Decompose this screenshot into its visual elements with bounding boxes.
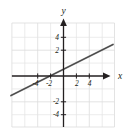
xtick-label-pos2: 2 [75, 79, 79, 88]
graph-canvas: -4 -2 2 4 4 2 -2 -4 x y [0, 0, 129, 137]
ytick-label-neg2: -2 [53, 97, 59, 106]
y-axis-label: y [60, 6, 66, 16]
ytick-label-pos2: 2 [55, 46, 59, 55]
xtick-label-pos4: 4 [88, 79, 92, 88]
xtick-label-neg4: -4 [32, 79, 38, 88]
coordinate-plane-figure: -4 -2 2 4 4 2 -2 -4 x y [0, 0, 129, 137]
y-axis-arrowhead [60, 19, 67, 27]
plotted-line [11, 45, 113, 96]
x-axis-arrowhead [103, 73, 111, 80]
axes [12, 19, 111, 128]
ytick-label-neg4: -4 [53, 110, 59, 119]
xtick-label-neg2: -2 [46, 79, 52, 88]
x-axis-label: x [117, 71, 123, 81]
ytick-label-pos4: 4 [55, 33, 59, 42]
